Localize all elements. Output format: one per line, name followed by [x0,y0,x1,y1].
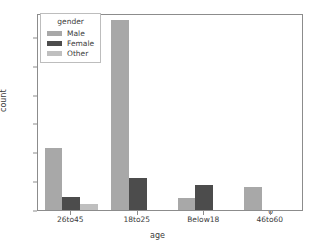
legend[interactable]: gender MaleFemaleOther [40,13,101,63]
y-axis-tick-mark [33,182,37,183]
bar [244,187,262,210]
bar [178,198,196,210]
chart-figure: count 0100200300400500600 26to4518to25Be… [0,0,315,248]
x-axis-tick-label: 26to45 [57,215,84,224]
x-axis-tick-label: 18to25 [123,215,150,224]
y-axis-label: count [0,89,8,112]
x-axis-tick-label: 46to60 [256,215,283,224]
legend-title: gender [47,17,94,26]
bar [80,204,98,210]
legend-item-female[interactable]: Female [47,38,94,48]
x-axis-tick-mark [137,211,138,215]
legend-item-label: Female [67,39,94,48]
bar [129,178,147,210]
y-axis-tick-mark [33,66,37,67]
y-axis-tick-mark [33,37,37,38]
y-axis-tick-mark [33,211,37,212]
bar [111,20,129,210]
bar [45,148,63,210]
x-axis-tick-mark [70,211,71,215]
x-axis-tick-mark [203,211,204,215]
legend-swatch-icon [47,31,62,36]
legend-item-label: Male [67,29,85,38]
y-axis-tick-mark [33,153,37,154]
y-axis-tick-mark [33,95,37,96]
x-axis-label: age [0,231,315,240]
legend-item-other[interactable]: Other [47,48,94,58]
bar [195,185,213,210]
legend-item-male[interactable]: Male [47,28,94,38]
legend-swatch-icon [47,41,62,46]
y-axis-tick-mark [33,124,37,125]
legend-swatch-icon [47,51,62,56]
x-axis-tick-mark [270,211,271,215]
legend-entries: MaleFemaleOther [47,28,94,58]
bar [62,197,80,210]
legend-item-label: Other [67,49,88,58]
x-axis-tick-label: Below18 [187,215,219,224]
